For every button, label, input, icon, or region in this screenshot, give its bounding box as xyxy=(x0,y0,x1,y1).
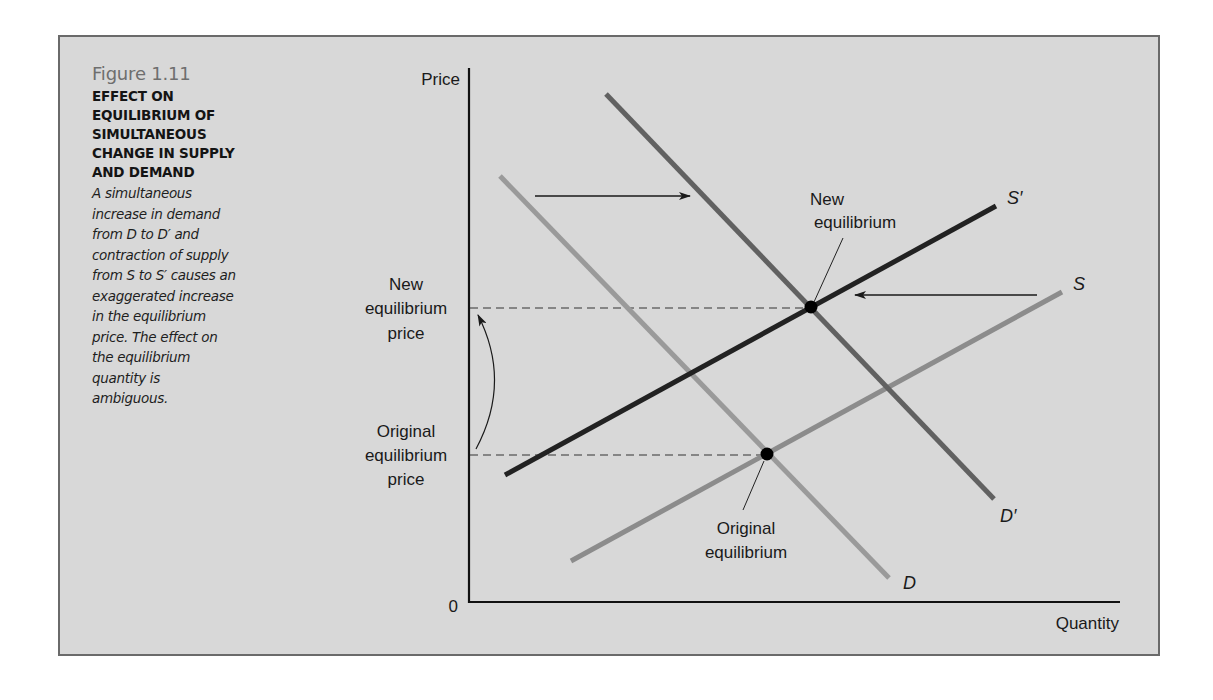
curve-label-D: D xyxy=(903,573,916,593)
new-equilibrium-label-2: equilibrium xyxy=(814,213,896,232)
new-price-label-2: equilibrium xyxy=(365,299,447,318)
curve-label-S: S xyxy=(1073,274,1085,294)
y-axis-label: Price xyxy=(421,70,460,89)
new-equilibrium-label-1: New xyxy=(810,190,845,209)
supply-curve-S xyxy=(571,292,1062,561)
original-equilibrium-point xyxy=(761,448,774,461)
new-price-label-1: New xyxy=(389,275,424,294)
original-price-label-2: equilibrium xyxy=(365,446,447,465)
supply-demand-chart: Price Quantity 0 D D′ S S′ New equilibri… xyxy=(0,0,1213,700)
demand-curve-D xyxy=(500,176,889,578)
origin-label: 0 xyxy=(449,597,458,616)
new-price-label-3: price xyxy=(388,324,425,343)
original-equilibrium-label-2: equilibrium xyxy=(705,543,787,562)
new-equilibrium-point xyxy=(805,301,818,314)
x-axis-label: Quantity xyxy=(1056,614,1120,633)
original-equilibrium-label-1: Original xyxy=(717,519,776,538)
original-price-label-3: price xyxy=(388,470,425,489)
curve-label-S-prime: S′ xyxy=(1007,188,1023,208)
original-equilibrium-leader xyxy=(743,461,764,510)
original-price-label-1: Original xyxy=(377,422,436,441)
price-increase-arrow xyxy=(476,315,495,449)
curve-label-D-prime: D′ xyxy=(1000,506,1017,526)
